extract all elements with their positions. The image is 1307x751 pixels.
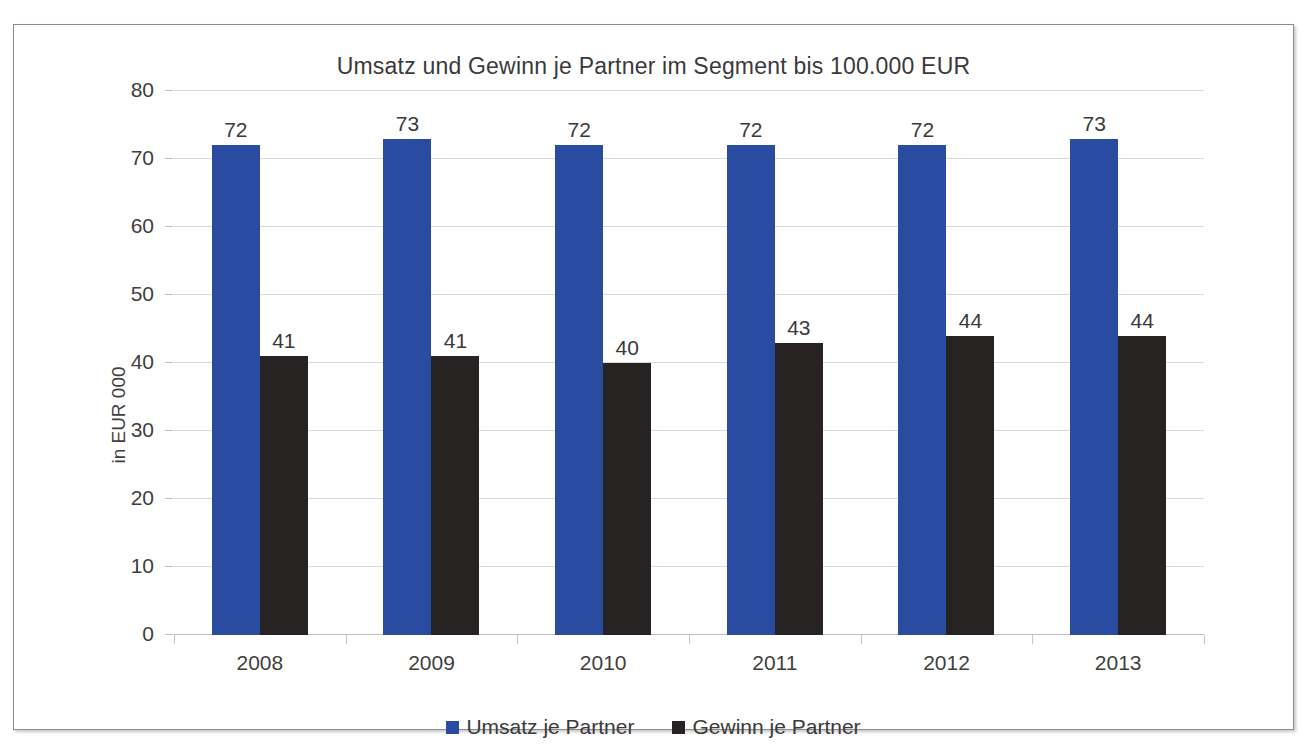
x-tick-mark bbox=[346, 635, 347, 644]
x-tick-label: 2010 bbox=[580, 651, 627, 675]
bar-value-label: 73 bbox=[396, 112, 419, 139]
y-tick-mark bbox=[165, 90, 173, 91]
bar: 73 bbox=[383, 139, 431, 635]
bar: 43 bbox=[775, 343, 823, 635]
plot-area: 01020304050607080 7241734172407243724473… bbox=[174, 91, 1204, 635]
x-tick-mark bbox=[1204, 635, 1205, 644]
bar: 72 bbox=[212, 145, 260, 635]
x-tick-mark bbox=[689, 635, 690, 644]
y-tick-label: 20 bbox=[131, 486, 154, 510]
bar-group: 7241 bbox=[174, 91, 346, 635]
y-tick-mark bbox=[165, 566, 173, 567]
bar-group: 7341 bbox=[346, 91, 518, 635]
bar-value-label: 44 bbox=[959, 309, 982, 336]
bar-value-label: 73 bbox=[1082, 112, 1105, 139]
bar-value-label: 72 bbox=[567, 118, 590, 145]
legend-item[interactable]: Umsatz je Partner bbox=[446, 715, 634, 739]
bar-group: 7240 bbox=[517, 91, 689, 635]
y-tick-label: 0 bbox=[142, 622, 154, 646]
y-tick-label: 70 bbox=[131, 146, 154, 170]
y-tick-mark bbox=[165, 158, 173, 159]
y-tick-mark bbox=[165, 430, 173, 431]
x-tick-mark bbox=[861, 635, 862, 644]
legend-swatch-icon bbox=[672, 721, 685, 734]
bar-value-label: 40 bbox=[615, 336, 638, 363]
y-tick-mark bbox=[165, 634, 173, 635]
chart-frame: Umsatz und Gewinn je Partner im Segment … bbox=[13, 24, 1294, 730]
x-tick-mark bbox=[174, 635, 175, 644]
y-tick-mark bbox=[165, 294, 173, 295]
bar-value-label: 72 bbox=[911, 118, 934, 145]
bar-value-label: 72 bbox=[739, 118, 762, 145]
bar-value-label: 44 bbox=[1130, 309, 1153, 336]
y-tick-mark bbox=[165, 498, 173, 499]
chart-title: Umsatz und Gewinn je Partner im Segment … bbox=[14, 53, 1293, 80]
bar: 44 bbox=[946, 336, 994, 635]
legend-label: Umsatz je Partner bbox=[466, 715, 634, 739]
y-tick-mark bbox=[165, 362, 173, 363]
chart-legend: Umsatz je PartnerGewinn je Partner bbox=[14, 715, 1293, 739]
bar: 72 bbox=[727, 145, 775, 635]
y-tick-label: 80 bbox=[131, 78, 154, 102]
bar: 73 bbox=[1070, 139, 1118, 635]
bar: 41 bbox=[431, 356, 479, 635]
legend-item[interactable]: Gewinn je Partner bbox=[672, 715, 860, 739]
legend-swatch-icon bbox=[446, 721, 459, 734]
bar: 72 bbox=[898, 145, 946, 635]
x-tick-label: 2008 bbox=[236, 651, 283, 675]
x-tick-label: 2013 bbox=[1095, 651, 1142, 675]
x-tick-label: 2009 bbox=[408, 651, 455, 675]
y-tick-label: 60 bbox=[131, 214, 154, 238]
y-tick-label: 40 bbox=[131, 350, 154, 374]
y-tick-label: 50 bbox=[131, 282, 154, 306]
bar: 41 bbox=[260, 356, 308, 635]
legend-label: Gewinn je Partner bbox=[692, 715, 860, 739]
x-tick-label: 2012 bbox=[923, 651, 970, 675]
bar-group: 7244 bbox=[861, 91, 1033, 635]
bar-value-label: 72 bbox=[224, 118, 247, 145]
bar: 40 bbox=[603, 363, 651, 635]
bar-value-label: 41 bbox=[272, 329, 295, 356]
chart-page: Umsatz und Gewinn je Partner im Segment … bbox=[0, 0, 1307, 751]
bar: 44 bbox=[1118, 336, 1166, 635]
bar: 72 bbox=[555, 145, 603, 635]
bar-value-label: 41 bbox=[444, 329, 467, 356]
bar-group: 7344 bbox=[1032, 91, 1204, 635]
bar-group: 7243 bbox=[689, 91, 861, 635]
y-axis-title: in EUR 000 bbox=[108, 295, 130, 535]
x-tick-mark bbox=[1032, 635, 1033, 644]
y-tick-label: 10 bbox=[131, 554, 154, 578]
bar-value-label: 43 bbox=[787, 316, 810, 343]
y-tick-mark bbox=[165, 226, 173, 227]
y-tick-label: 30 bbox=[131, 418, 154, 442]
x-tick-label: 2011 bbox=[752, 651, 797, 675]
x-tick-mark bbox=[517, 635, 518, 644]
